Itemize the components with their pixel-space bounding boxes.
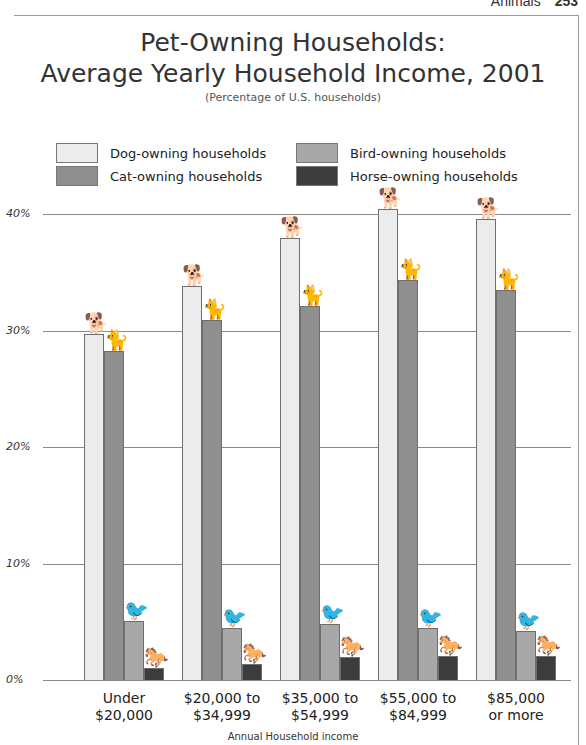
legend-label: Horse-owning households (350, 169, 518, 184)
x-tick-label-line: $34,999 (167, 707, 277, 724)
y-tick-label: 10% (6, 557, 40, 570)
bird-icon: 🐦 (124, 600, 144, 620)
chart-subtitle: (Percentage of U.S. households) (0, 91, 586, 104)
x-tick-label: Under$20,000 (69, 690, 179, 724)
x-tick-label: $35,000 to$54,999 (265, 690, 375, 724)
legend-item-bird: Bird-owning households (296, 143, 506, 163)
y-tick-label: 40% (6, 207, 40, 220)
frame-right-border (578, 15, 579, 745)
bird-icon: 🐦 (418, 607, 438, 627)
legend-item-horse: Horse-owning households (296, 166, 518, 186)
y-tick-label: 20% (6, 440, 40, 453)
x-tick-label-line: $20,000 (69, 707, 179, 724)
bar-dog-1 (182, 286, 202, 680)
x-tick-label-line: $84,999 (363, 707, 473, 724)
cat-icon: 🐈 (104, 330, 124, 350)
x-tick-label-line: $54,999 (265, 707, 375, 724)
chart-title-line-1: Pet-Owning Households: (0, 28, 586, 57)
bar-cat-2 (300, 306, 320, 680)
section-name: Animals (491, 0, 541, 9)
bar-bird-4 (516, 631, 536, 680)
page-number: 253 (555, 0, 578, 9)
cat-icon: 🐈 (398, 259, 418, 279)
bird-icon: 🐦 (320, 603, 340, 623)
horse-icon: 🐎 (144, 647, 164, 667)
x-tick-label-line: $20,000 to (167, 690, 277, 707)
bar-dog-0 (84, 334, 104, 680)
legend-swatch (296, 143, 338, 163)
horse-icon: 🐎 (536, 635, 556, 655)
cat-icon: 🐈 (202, 299, 222, 319)
bar-bird-2 (320, 624, 340, 680)
cat-icon: 🐈 (496, 269, 516, 289)
chart-title-line-2: Average Yearly Household Income, 2001 (0, 59, 586, 88)
bar-horse-2 (340, 657, 360, 680)
bird-icon: 🐦 (516, 610, 536, 630)
dog-icon: 🐕 (182, 265, 202, 285)
dog-icon: 🐕 (84, 313, 104, 333)
bar-dog-4 (476, 219, 496, 680)
x-tick-label: $20,000 to$34,999 (167, 690, 277, 724)
bar-dog-3 (378, 209, 398, 680)
frame-top-border (14, 15, 579, 16)
cat-icon: 🐈 (300, 285, 320, 305)
legend-label: Bird-owning households (350, 146, 506, 161)
bar-horse-3 (438, 656, 458, 680)
bar-dog-2 (280, 238, 300, 680)
bar-horse-4 (536, 656, 556, 680)
y-tick-label: 0% (6, 673, 40, 686)
bar-cat-1 (202, 320, 222, 680)
gridline (43, 680, 571, 681)
bar-horse-0 (144, 668, 164, 680)
x-tick-label-line: $55,000 to (363, 690, 473, 707)
y-tick-label: 30% (6, 324, 40, 337)
bar-cat-0 (104, 351, 124, 680)
x-tick-label-line: or more (461, 707, 571, 724)
dog-icon: 🐕 (280, 217, 300, 237)
x-tick-label-line: $35,000 to (265, 690, 375, 707)
legend-label: Cat-owning households (110, 169, 262, 184)
x-tick-label-line: $85,000 (461, 690, 571, 707)
x-tick-label: $55,000 to$84,999 (363, 690, 473, 724)
legend-label: Dog-owning households (110, 146, 266, 161)
legend-swatch (56, 166, 98, 186)
legend-swatch (56, 143, 98, 163)
bar-horse-1 (242, 664, 262, 680)
dog-icon: 🐕 (476, 198, 496, 218)
bar-bird-3 (418, 628, 438, 680)
x-tick-label-line: Under (69, 690, 179, 707)
bar-bird-1 (222, 628, 242, 680)
page-header: Animals253 (491, 0, 578, 9)
legend-swatch (296, 166, 338, 186)
bar-cat-4 (496, 290, 516, 680)
dog-icon: 🐕 (378, 188, 398, 208)
bar-cat-3 (398, 280, 418, 680)
bar-bird-0 (124, 621, 144, 680)
horse-icon: 🐎 (242, 643, 262, 663)
x-axis-title: Annual Household income (0, 731, 586, 742)
legend-item-cat: Cat-owning households (56, 166, 262, 186)
x-tick-label: $85,000or more (461, 690, 571, 724)
horse-icon: 🐎 (340, 636, 360, 656)
bird-icon: 🐦 (222, 607, 242, 627)
legend-item-dog: Dog-owning households (56, 143, 266, 163)
horse-icon: 🐎 (438, 635, 458, 655)
